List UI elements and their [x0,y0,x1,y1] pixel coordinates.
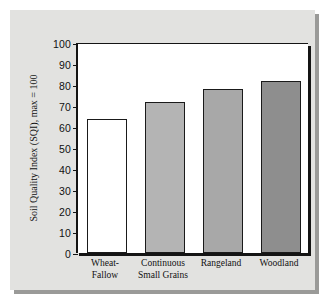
x-category-label: Rangeland [192,258,250,270]
x-category-label: ContinuousSmall Grains [134,258,192,281]
x-category-label-line: Small Grains [134,270,192,282]
plot-frame: 1009080706050403020100 [76,43,308,253]
y-tick-label: 90 [59,59,71,71]
y-tick-label: 40 [59,164,71,176]
bar-continuous-small-grains [145,102,185,253]
x-category-label-line: Rangeland [192,258,250,270]
y-tick-label: 100 [53,38,71,50]
x-axis-category-labels: Wheat-FallowContinuousSmall GrainsRangel… [76,258,308,290]
y-axis-title: Soil Quality Index (SQI), max = 100 [28,43,42,253]
y-tick-label: 60 [59,122,71,134]
x-category-label: Woodland [250,258,308,270]
y-tick-label: 0 [65,248,71,260]
chart-page-panel: Soil Quality Index (SQI), max = 100 1009… [10,10,315,290]
y-tick-label: 20 [59,206,71,218]
bar-woodland [261,81,301,253]
bar-wheat-fallow [87,119,127,253]
figure-root: Soil Quality Index (SQI), max = 100 1009… [0,0,330,302]
y-tick-label: 10 [59,227,71,239]
y-tick-label: 50 [59,143,71,155]
x-category-label-line: Fallow [76,270,134,282]
y-tick-label: 80 [59,80,71,92]
bars-layer [78,44,308,253]
x-category-label-line: Wheat- [76,258,134,270]
x-category-label-line: Woodland [250,258,308,270]
y-tick-mark [73,254,78,255]
y-tick-label: 70 [59,101,71,113]
bar-rangeland [203,89,243,253]
x-category-label-line: Continuous [134,258,192,270]
y-tick-label: 30 [59,185,71,197]
x-category-label: Wheat-Fallow [76,258,134,281]
